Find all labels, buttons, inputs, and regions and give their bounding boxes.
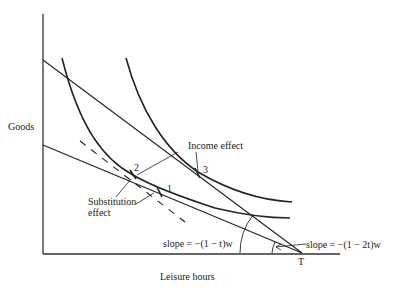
angle-arc-large <box>240 215 253 253</box>
substitution-effect-leader-1 <box>116 179 131 197</box>
y-axis-label: Goods <box>8 121 34 132</box>
budget-line-t <box>43 60 302 253</box>
income-effect-leader-2 <box>196 152 198 171</box>
indifference-curve-low <box>62 58 290 218</box>
indifference-curve-high <box>126 58 292 202</box>
t-endpoint-label: T <box>298 256 304 267</box>
slope-upper-label: slope = −(1 − t)w <box>163 238 233 249</box>
point-3-label: 3 <box>203 164 208 175</box>
slope-lower-label: slope = −(1 − 2t)w <box>306 239 381 250</box>
point-2-label: 2 <box>134 162 139 173</box>
income-effect-leader-1 <box>137 152 178 175</box>
substitution-effect-label-line2: effect <box>88 207 111 218</box>
x-axis-label: Leisure hours <box>160 271 215 282</box>
angle-arc-small <box>272 242 275 253</box>
point-1-label: 1 <box>167 183 172 194</box>
budget-line-2t <box>43 145 302 253</box>
substitution-effect-label-line1: Substitution <box>88 196 136 207</box>
income-effect-label: Income effect <box>188 140 243 151</box>
substitution-effect-leader-2 <box>136 193 154 204</box>
